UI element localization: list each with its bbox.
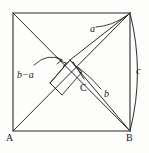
label-vertex-b: B: [126, 133, 133, 143]
leader-arrow-b-minus-a: [34, 57, 62, 65]
label-side-c: c: [136, 66, 140, 76]
label-vertex-c: C: [80, 83, 87, 93]
label-segment-b-minus-a: b−a: [17, 70, 34, 80]
geometry-figure: A B C a b c b−a: [0, 0, 149, 153]
label-side-b: b: [104, 89, 109, 99]
label-vertex-a: A: [6, 133, 13, 143]
segment-a-line: [70, 13, 130, 60]
label-side-a: a: [90, 24, 95, 34]
